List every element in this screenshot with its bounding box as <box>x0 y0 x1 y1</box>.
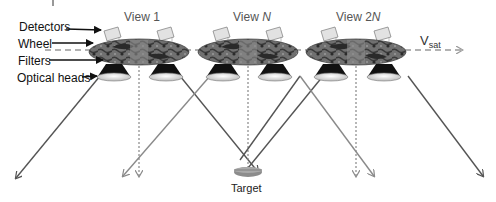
optical-head <box>206 64 240 81</box>
view-1-label: View 1 <box>124 11 160 23</box>
optical-head <box>149 64 183 81</box>
multi-view-satellite-diagram: Detectors Wheel Filters Optical heads Vi… <box>0 0 496 202</box>
optical-head <box>97 64 131 81</box>
instrument-view1 <box>89 27 189 81</box>
ray-view1-left <box>16 76 100 178</box>
detectors-label: Detectors <box>19 21 70 33</box>
velocity-symbol: V <box>420 33 429 48</box>
view-n-suffix: N <box>262 10 271 24</box>
instrument-view2N <box>306 27 406 81</box>
target-label: Target <box>231 183 262 194</box>
view-n-prefix: View <box>233 10 262 24</box>
ray-viewN-left <box>123 76 210 176</box>
ray-view2N-right <box>408 76 483 176</box>
ray-viewN-far <box>300 76 374 176</box>
filter-wheel <box>89 39 189 65</box>
view-2n-label: View 2N <box>336 11 380 23</box>
instrument-viewN <box>198 27 298 81</box>
optical-head <box>367 64 401 81</box>
ray-view1-right <box>180 76 258 172</box>
optical-head <box>314 64 348 81</box>
optical-heads-label: Optical heads <box>17 72 90 84</box>
view-1-suffix: 1 <box>153 10 160 24</box>
optical-head <box>258 64 292 81</box>
filter-wheel <box>306 39 406 65</box>
view-n-label: View N <box>233 11 271 23</box>
view-1-prefix: View <box>124 10 153 24</box>
detectors-pointer-arrow <box>66 29 101 30</box>
view-2n-prefix: View 2 <box>336 10 372 24</box>
satellite-velocity-label: Vsat <box>420 34 441 50</box>
filter-wheel <box>198 39 298 65</box>
velocity-subscript: sat <box>429 40 441 50</box>
ray-view2N-left <box>248 76 323 168</box>
wheel-label: Wheel <box>18 38 52 50</box>
diagram-canvas <box>0 0 496 202</box>
ray-viewN-right <box>240 76 300 160</box>
filters-label: Filters <box>18 55 51 67</box>
target-disk <box>234 167 262 177</box>
view-2n-suffix: N <box>372 10 381 24</box>
